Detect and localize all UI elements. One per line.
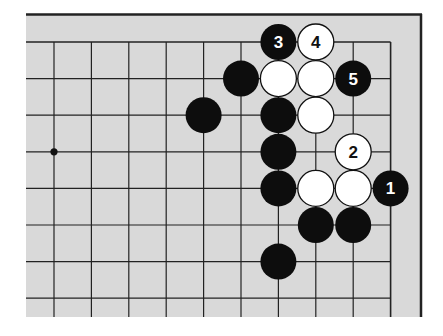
move-number-label: 2	[348, 143, 357, 162]
stone-disc	[260, 244, 296, 280]
stone-disc	[186, 97, 222, 133]
star-point	[50, 148, 57, 155]
stone-disc	[335, 207, 371, 243]
move-number-label: 3	[274, 33, 283, 52]
black-stone	[260, 170, 296, 206]
stone-disc	[335, 170, 371, 206]
stone-disc	[298, 97, 334, 133]
black-stone: 3	[260, 24, 296, 60]
stone-disc	[223, 61, 259, 97]
stone-disc	[298, 207, 334, 243]
black-stone	[260, 244, 296, 280]
black-stone	[260, 97, 296, 133]
stone-disc	[298, 61, 334, 97]
move-number-label: 5	[348, 70, 357, 89]
black-stone: 1	[373, 170, 409, 206]
white-stone	[335, 170, 371, 206]
white-stone: 4	[298, 24, 334, 60]
stone-disc	[260, 134, 296, 170]
black-stone	[260, 134, 296, 170]
star-points	[50, 148, 57, 155]
black-stone	[186, 97, 222, 133]
move-number-label: 1	[386, 179, 395, 198]
black-stone	[223, 61, 259, 97]
white-stone	[260, 61, 296, 97]
white-stone: 2	[335, 134, 371, 170]
white-stone	[298, 170, 334, 206]
stone-disc	[260, 97, 296, 133]
move-number-label: 4	[311, 33, 321, 52]
white-stone	[298, 61, 334, 97]
stone-disc	[260, 170, 296, 206]
stone-disc	[298, 170, 334, 206]
black-stone	[298, 207, 334, 243]
black-stone: 5	[335, 61, 371, 97]
white-stone	[298, 97, 334, 133]
black-stone	[335, 207, 371, 243]
stone-disc	[260, 61, 296, 97]
go-board: 34521	[0, 0, 443, 336]
